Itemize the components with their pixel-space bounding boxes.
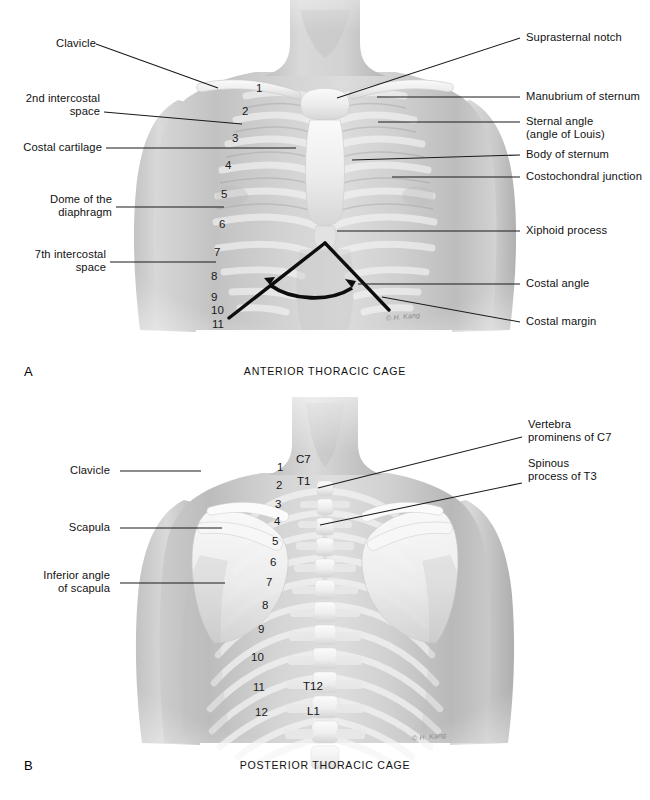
label-spinous-process-t3: Spinous process of T3	[528, 457, 597, 484]
rib-number: 10	[211, 304, 224, 316]
vertebra-label-t12: T12	[303, 680, 323, 692]
rib-number: 7	[266, 576, 272, 588]
rib-number: 8	[211, 270, 217, 282]
label-dome-of-diaphragm: Dome of the diaphragm	[14, 193, 112, 220]
rib-number: 9	[211, 291, 217, 303]
rib-number: 4	[225, 159, 231, 171]
caption-anterior: ANTERIOR THORACIC CAGE	[0, 365, 650, 377]
rib-number: 4	[274, 515, 280, 527]
label-2nd-intercostal-space: 2nd intercostal space	[4, 92, 100, 119]
rib-number: 5	[221, 188, 227, 200]
label-costochondral-junction: Costochondral junction	[526, 170, 642, 183]
label-manubrium-of-sternum: Manubrium of sternum	[526, 90, 640, 103]
label-clavicle-posterior: Clavicle	[14, 464, 110, 477]
rib-number: 1	[256, 82, 262, 94]
caption-posterior: POSTERIOR THORACIC CAGE	[0, 759, 650, 771]
label-sternal-angle: Sternal angle (angle of Louis)	[526, 115, 605, 142]
label-inferior-angle-of-scapula: Inferior angle of scapula	[14, 569, 110, 596]
label-costal-cartilage: Costal cartilage	[4, 141, 102, 154]
rib-number: 11	[212, 318, 224, 330]
rib-number: 2	[276, 479, 282, 491]
rib-number: 11	[253, 681, 265, 693]
label-costal-angle: Costal angle	[526, 277, 589, 290]
label-clavicle: Clavicle	[14, 37, 96, 50]
rib-number: 6	[219, 218, 225, 230]
rib-number: 2	[242, 105, 248, 117]
rib-number: 3	[232, 132, 238, 144]
anterior-thoracic-cage-figure: Clavicle 2nd intercostal space Costal ca…	[0, 0, 650, 400]
rib-number: 5	[272, 535, 278, 547]
posterior-thoracic-cage-figure: Clavicle Scapula Inferior angle of scapu…	[0, 395, 650, 800]
label-7th-intercostal-space: 7th intercostal space	[14, 248, 106, 275]
rib-number: 3	[275, 498, 281, 510]
label-body-of-sternum: Body of sternum	[526, 148, 609, 161]
rib-number: 7	[214, 246, 220, 258]
vertebra-label-l1: L1	[307, 705, 320, 717]
vertebra-label-c7: C7	[296, 453, 311, 465]
rib-number: 12	[255, 706, 268, 718]
rib-number: 6	[270, 556, 276, 568]
rib-number: 10	[251, 651, 264, 663]
label-vertebra-prominens-c7: Vertebra prominens of C7	[528, 418, 612, 445]
label-costal-margin: Costal margin	[526, 315, 596, 328]
vertebra-label-t1: T1	[297, 475, 310, 487]
posterior-torso-illustration	[0, 395, 650, 800]
label-xiphoid-process: Xiphoid process	[526, 224, 607, 237]
label-scapula: Scapula	[14, 521, 110, 534]
label-suprasternal-notch: Suprasternal notch	[526, 31, 622, 44]
rib-number: 1	[277, 461, 283, 473]
rib-number: 9	[258, 623, 264, 635]
rib-number: 8	[262, 599, 268, 611]
